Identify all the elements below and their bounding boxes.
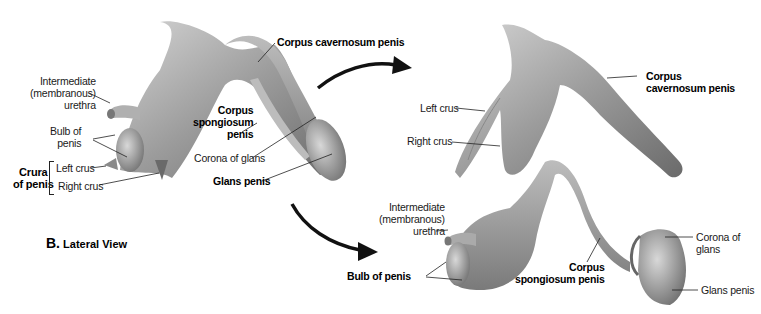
label-spongiosum-corpus-spongiosum: Corpus spongiosum penis xyxy=(515,261,605,285)
label-spongiosum-intermediate-urethra: Intermediate (membranous) urethra xyxy=(379,201,445,237)
arrow-to-spongiosum xyxy=(292,204,360,250)
arrow-head-top xyxy=(392,56,412,74)
label-cavernosa-corpus-cavernosum: Corpus cavernosum penis xyxy=(646,70,735,94)
label-spongiosum-bulb-of-penis: Bulb of penis xyxy=(347,270,411,282)
label-corpus-cavernosum-penis: Corpus cavernosum penis xyxy=(277,36,404,48)
arrow-head-bottom xyxy=(358,242,378,261)
label-cavernosa-right-crus: Right crus xyxy=(407,135,452,147)
label-glans-penis: Glans penis xyxy=(213,175,270,187)
label-corpus-spongiosum-penis: Corpus spongiosum penis xyxy=(193,104,253,140)
label-bulb-of-penis: Bulb of penis xyxy=(50,125,81,149)
crura-bracket xyxy=(49,161,54,195)
figure-caption: B. Lateral View xyxy=(46,235,127,251)
label-right-crus: Right crus xyxy=(58,180,103,192)
label-spongiosum-glans-penis: Glans penis xyxy=(701,284,754,296)
label-crura-of-penis: Crura of penis xyxy=(13,166,54,190)
anatomy-figure: Intermediate (membranous) urethra Bulb o… xyxy=(0,0,761,314)
label-intermediate-urethra: Intermediate (membranous) urethra xyxy=(30,75,96,111)
label-spongiosum-corona-of-glans: Corona of glans xyxy=(696,231,740,255)
label-left-crus: Left crus xyxy=(56,162,94,174)
corpora-cavernosa-illustration xyxy=(455,25,683,178)
arrow-to-cavernosa xyxy=(318,64,396,88)
label-cavernosa-left-crus: Left crus xyxy=(420,102,458,114)
label-corona-of-glans: Corona of glans xyxy=(194,152,265,164)
